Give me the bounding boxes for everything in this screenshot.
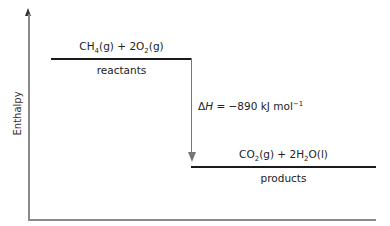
products-energy-level [191, 166, 376, 168]
y-axis [28, 14, 30, 220]
products-label: products [191, 172, 376, 184]
reactants-energy-level [51, 58, 192, 60]
products-formula: CO2(g) + 2H2O(l) [191, 148, 376, 160]
enthalpy-change-label: ΔH = −890 kJ mol−1 [198, 100, 303, 112]
enthalpy-change-arrow-shaft [191, 58, 193, 154]
reactants-formula: CH4(g) + 2O2(g) [51, 40, 192, 52]
reactants-label: reactants [51, 64, 192, 76]
y-axis-label: Enthalpy [12, 106, 23, 136]
x-axis [28, 219, 376, 221]
